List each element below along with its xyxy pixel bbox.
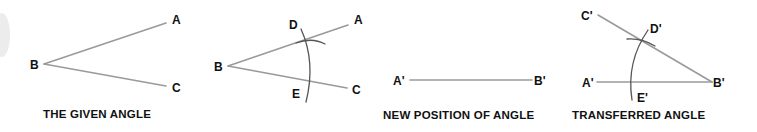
point-label-c-prime: C' (581, 9, 593, 23)
point-label-a-prime: A' (393, 74, 405, 88)
caption-given-angle: THE GIVEN ANGLE (43, 108, 151, 120)
ray-bc (228, 66, 347, 88)
point-label-b: B (30, 58, 39, 72)
point-label-c: C (352, 83, 361, 97)
panel-transferred-angle: C' A' B' D' E' TRANSFERRED ANGLE (572, 9, 725, 121)
point-label-e: E (292, 87, 300, 101)
angle-transfer-diagram: A B C THE GIVEN ANGLE A B C D E A' B' NE… (0, 0, 757, 132)
point-label-b-prime: B' (534, 74, 546, 88)
point-label-b: B (214, 60, 223, 74)
point-label-b-prime: B' (713, 76, 725, 90)
scan-smudge (0, 13, 10, 57)
point-label-d: D (289, 18, 298, 32)
compass-arc-d-prime-e-prime (631, 30, 648, 100)
ray-ba (228, 25, 348, 66)
ray-ba (44, 23, 166, 64)
point-label-a: A (354, 13, 363, 27)
point-label-d-prime: D' (650, 22, 662, 36)
diagram-canvas: A B C THE GIVEN ANGLE A B C D E A' B' NE… (0, 0, 757, 132)
panel-construction: A B C D E (214, 13, 363, 102)
point-label-a: A (172, 13, 181, 27)
point-label-c: C (172, 81, 181, 95)
ray-bc (44, 64, 166, 86)
panel-given-angle: A B C THE GIVEN ANGLE (30, 13, 181, 120)
caption-new-position: NEW POSITION OF ANGLE (383, 109, 534, 121)
panel-new-position: A' B' NEW POSITION OF ANGLE (383, 74, 546, 121)
point-label-e-prime: E' (637, 91, 648, 105)
point-label-a-prime: A' (582, 76, 594, 90)
caption-transferred-angle: TRANSFERRED ANGLE (572, 109, 705, 121)
